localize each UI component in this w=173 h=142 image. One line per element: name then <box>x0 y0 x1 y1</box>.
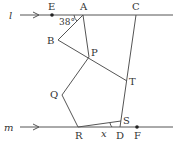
label-A: A <box>79 1 88 12</box>
segment-QR <box>62 95 78 127</box>
segment-RS <box>78 121 121 127</box>
segment-PQ <box>62 57 89 95</box>
label-B: B <box>47 35 54 46</box>
angle-label-x: x <box>101 128 107 139</box>
label-l: l <box>9 10 12 21</box>
label-Q: Q <box>50 89 58 100</box>
point-F-dot <box>135 125 139 129</box>
label-R: R <box>75 130 83 141</box>
label-D: D <box>116 130 124 141</box>
angle-label-38: 38° <box>59 17 75 27</box>
segment-AP <box>83 15 89 57</box>
label-F: F <box>134 130 141 141</box>
label-P: P <box>91 47 98 58</box>
label-E: E <box>48 1 55 12</box>
label-C: C <box>132 1 140 12</box>
point-E-dot <box>50 13 54 17</box>
diagram-canvas: l m E A C B P Q T S R D F 38° x <box>0 0 173 142</box>
segment-CD <box>120 15 136 127</box>
label-m: m <box>4 122 13 133</box>
angle-arc-x <box>110 123 112 127</box>
label-S: S <box>123 115 130 126</box>
label-T: T <box>129 76 136 87</box>
geometry-diagram: l m E A C B P Q T S R D F 38° x <box>0 0 173 142</box>
